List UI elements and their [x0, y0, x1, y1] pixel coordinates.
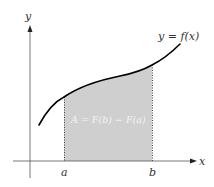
- x-axis-label: x: [199, 155, 206, 168]
- interval-label-b: b: [149, 166, 156, 179]
- y-axis-label: y: [24, 10, 32, 23]
- x-axis-arrow-icon: [190, 159, 197, 164]
- area-formula-label: A = F(b) − F(a): [70, 114, 146, 125]
- curve-label: y = f(x): [157, 30, 199, 43]
- interval-label-a: a: [61, 166, 68, 179]
- y-axis-arrow-icon: [28, 25, 33, 32]
- integral-area-diagram: y x y = f(x) a b A = F(b) − F(a): [0, 0, 214, 187]
